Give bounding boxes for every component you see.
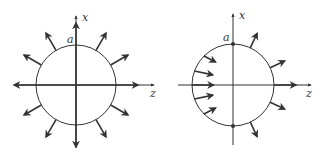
right-radius-label: a	[223, 31, 230, 44]
left-radius-label: a	[67, 33, 74, 46]
field-arrow	[111, 105, 128, 115]
field-arrow	[96, 120, 106, 137]
field-arrow	[96, 33, 106, 50]
field-arrow	[111, 55, 128, 65]
right-z-label: z	[305, 87, 312, 100]
left-x-label: x	[82, 11, 89, 24]
field-arrow	[24, 55, 41, 65]
field-arrow	[46, 33, 56, 50]
left-figure	[14, 16, 154, 148]
diagram-canvas: x z a x z a	[0, 0, 323, 156]
right-figure	[178, 14, 311, 145]
field-arrow	[46, 120, 56, 137]
right-x-label: x	[239, 9, 246, 22]
field-arrow	[270, 61, 285, 68]
left-radial-arrows	[14, 23, 138, 147]
left-z-label: z	[149, 87, 156, 100]
field-arrow	[204, 108, 216, 114]
field-arrow	[250, 33, 257, 48]
field-arrow	[250, 122, 257, 137]
right-bottom-pole-dot	[231, 124, 235, 128]
field-arrow	[24, 105, 41, 115]
right-top-pole-dot	[231, 42, 235, 46]
field-arrow	[204, 56, 216, 62]
field-arrow	[194, 71, 212, 75]
field-arrow	[194, 95, 212, 99]
field-arrow	[270, 102, 285, 109]
